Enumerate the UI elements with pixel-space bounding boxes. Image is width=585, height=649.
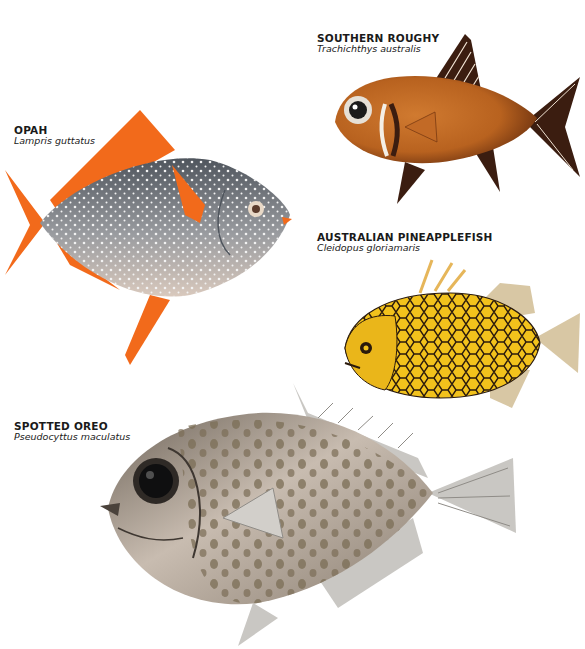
spotted-oreo-illustration xyxy=(98,378,523,648)
opah-illustration xyxy=(0,105,300,370)
caption-australian-pineapplefish: AUSTRALIAN PINEAPPLEFISH Cleidopus glori… xyxy=(317,231,493,254)
southern-roughy-illustration xyxy=(325,32,585,210)
scientific-name: Cleidopus gloriamaris xyxy=(317,243,493,254)
